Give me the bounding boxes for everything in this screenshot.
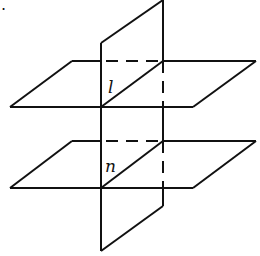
vertical-plane xyxy=(101,0,163,251)
label-n: n xyxy=(105,156,116,176)
label-l: l xyxy=(108,77,113,97)
geometry-diagram: . l n xyxy=(0,0,260,256)
corner-mark: . xyxy=(1,0,6,14)
